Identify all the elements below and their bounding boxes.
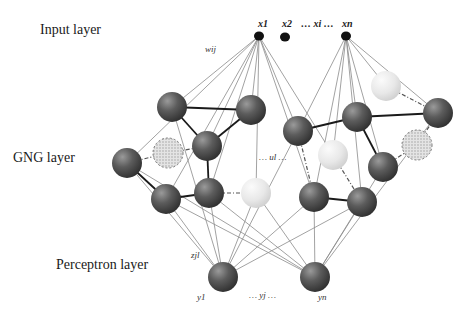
weight-line [127, 163, 315, 277]
weight-line [259, 36, 298, 131]
gng-node [151, 184, 181, 214]
yn-label: yn [318, 292, 327, 302]
gng-node-removed [402, 130, 432, 160]
gng-node-new [318, 140, 348, 170]
input-node-x1 [254, 32, 264, 41]
perceptron-layer-label: Perceptron layer [56, 257, 148, 273]
x1-label: x1 [258, 18, 268, 29]
gng-node [157, 92, 187, 122]
input-layer-label: Input layer [40, 22, 101, 38]
gng-node [342, 102, 372, 132]
gng-node-removed [153, 138, 183, 168]
zjl-label: zjl [191, 250, 200, 260]
weight-line [298, 36, 346, 131]
gng-node [236, 95, 266, 125]
gng-node [192, 131, 222, 161]
gng-node [368, 152, 398, 182]
output-node-y1 [208, 262, 238, 292]
gng-layer-label: GNG layer [13, 150, 75, 166]
x2-label: x2 [282, 18, 292, 29]
gng-node-new [241, 178, 271, 208]
gng-node [283, 116, 313, 146]
y1-label: y1 [197, 292, 206, 302]
gng-node [112, 148, 142, 178]
gng-node [299, 182, 329, 212]
ul-label: … ul … [259, 152, 287, 162]
weight-line [166, 199, 315, 277]
weight-line [346, 36, 383, 167]
gng-node-new [371, 71, 401, 101]
wij-label: wij [205, 44, 216, 54]
gng-node [423, 98, 453, 128]
gng-node [194, 178, 224, 208]
output-node-yn [300, 262, 330, 292]
xi-label: … xi … [301, 18, 334, 29]
weight-line [314, 36, 346, 197]
weight-line [333, 36, 346, 155]
input-node-xn [341, 32, 351, 41]
gng-node [347, 187, 377, 217]
xn-label: xn [342, 18, 353, 29]
yj-label: … yj … [249, 290, 276, 300]
input-node-x2 [280, 33, 290, 42]
